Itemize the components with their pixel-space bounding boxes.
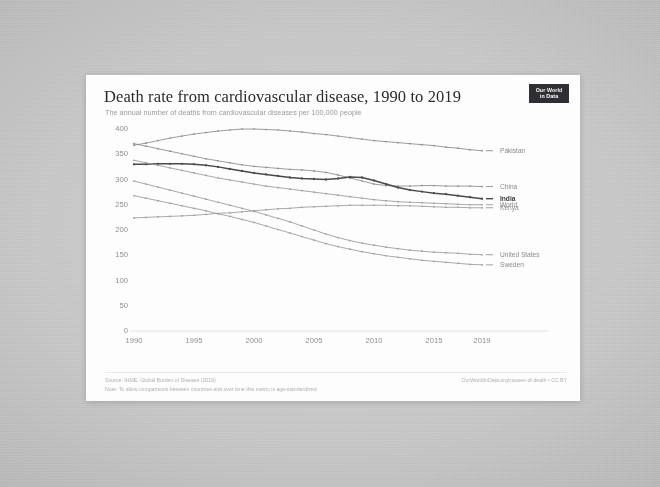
legend-label-pakistan[interactable]: Pakistan: [500, 147, 525, 154]
data-point[interactable]: [457, 185, 459, 187]
data-point[interactable]: [241, 181, 243, 183]
data-point[interactable]: [241, 164, 243, 166]
data-point[interactable]: [385, 246, 387, 248]
data-point[interactable]: [457, 206, 459, 208]
data-point[interactable]: [157, 216, 159, 218]
data-point[interactable]: [397, 205, 399, 207]
data-point[interactable]: [421, 259, 423, 261]
data-point[interactable]: [325, 172, 327, 174]
data-point[interactable]: [337, 194, 339, 196]
data-point[interactable]: [181, 192, 183, 194]
data-point[interactable]: [265, 129, 267, 131]
data-point[interactable]: [133, 163, 135, 165]
data-point[interactable]: [445, 146, 447, 148]
data-point[interactable]: [409, 249, 411, 251]
data-point[interactable]: [193, 195, 195, 197]
data-point[interactable]: [373, 253, 375, 255]
data-point[interactable]: [301, 190, 303, 192]
data-point[interactable]: [433, 192, 435, 194]
data-point[interactable]: [337, 246, 339, 248]
data-point[interactable]: [169, 137, 171, 139]
data-point[interactable]: [205, 175, 207, 177]
data-point[interactable]: [373, 244, 375, 246]
data-point[interactable]: [229, 168, 231, 170]
data-point[interactable]: [433, 185, 435, 187]
data-point[interactable]: [217, 160, 219, 162]
data-point[interactable]: [313, 170, 315, 172]
data-point[interactable]: [277, 129, 279, 131]
legend-label-united-states[interactable]: United States: [500, 251, 540, 258]
data-point[interactable]: [145, 162, 147, 164]
legend-label-china[interactable]: China: [500, 183, 517, 190]
data-point[interactable]: [469, 263, 471, 265]
data-point[interactable]: [457, 262, 459, 264]
data-point[interactable]: [193, 215, 195, 217]
data-point[interactable]: [277, 175, 279, 177]
data-point[interactable]: [373, 204, 375, 206]
data-point[interactable]: [349, 137, 351, 139]
data-point[interactable]: [337, 174, 339, 176]
data-point[interactable]: [385, 141, 387, 143]
data-point[interactable]: [181, 215, 183, 217]
data-point[interactable]: [157, 140, 159, 142]
data-point[interactable]: [445, 203, 447, 205]
data-point[interactable]: [205, 164, 207, 166]
data-point[interactable]: [181, 170, 183, 172]
data-point[interactable]: [205, 158, 207, 160]
data-point[interactable]: [337, 237, 339, 239]
data-point[interactable]: [133, 143, 135, 145]
data-point[interactable]: [313, 178, 315, 180]
data-point[interactable]: [265, 167, 267, 169]
data-point[interactable]: [385, 204, 387, 206]
data-point[interactable]: [205, 210, 207, 212]
footer-credit[interactable]: OurWorldInData.org/causes-of-death • CC …: [461, 377, 567, 383]
series-line-kenya[interactable]: [134, 205, 482, 218]
data-point[interactable]: [289, 130, 291, 132]
data-point[interactable]: [133, 159, 135, 161]
data-point[interactable]: [373, 199, 375, 201]
data-point[interactable]: [277, 229, 279, 231]
data-point[interactable]: [469, 196, 471, 198]
data-point[interactable]: [193, 172, 195, 174]
data-point[interactable]: [169, 202, 171, 204]
data-point[interactable]: [205, 198, 207, 200]
data-point[interactable]: [205, 132, 207, 134]
data-point[interactable]: [217, 130, 219, 132]
data-point[interactable]: [481, 150, 483, 152]
data-point[interactable]: [229, 179, 231, 181]
data-point[interactable]: [253, 210, 255, 212]
legend-label-sweden[interactable]: Sweden: [500, 261, 524, 268]
data-point[interactable]: [445, 193, 447, 195]
data-point[interactable]: [193, 163, 195, 165]
data-point[interactable]: [241, 211, 243, 213]
legend-label-kenya[interactable]: Kenya: [500, 204, 519, 211]
data-point[interactable]: [457, 203, 459, 205]
data-point[interactable]: [361, 176, 363, 178]
data-point[interactable]: [349, 196, 351, 198]
series-line-china[interactable]: [134, 144, 482, 187]
data-point[interactable]: [409, 143, 411, 145]
data-point[interactable]: [349, 240, 351, 242]
data-point[interactable]: [445, 252, 447, 254]
data-point[interactable]: [421, 250, 423, 252]
data-point[interactable]: [181, 163, 183, 165]
data-point[interactable]: [421, 185, 423, 187]
data-point[interactable]: [457, 252, 459, 254]
data-point[interactable]: [409, 185, 411, 187]
data-point[interactable]: [469, 207, 471, 209]
data-point[interactable]: [481, 254, 483, 256]
data-point[interactable]: [433, 206, 435, 208]
data-point[interactable]: [301, 131, 303, 133]
data-point[interactable]: [169, 167, 171, 169]
data-point[interactable]: [361, 251, 363, 253]
data-point[interactable]: [409, 201, 411, 203]
data-point[interactable]: [481, 204, 483, 206]
data-point[interactable]: [301, 169, 303, 171]
data-point[interactable]: [265, 225, 267, 227]
data-point[interactable]: [217, 166, 219, 168]
data-point[interactable]: [397, 248, 399, 250]
data-point[interactable]: [481, 186, 483, 188]
data-point[interactable]: [217, 201, 219, 203]
data-point[interactable]: [433, 202, 435, 204]
data-point[interactable]: [325, 205, 327, 207]
